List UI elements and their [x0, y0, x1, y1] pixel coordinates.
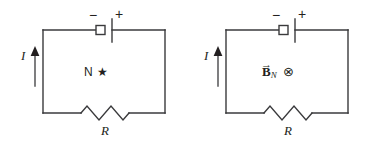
left-battery-short-plate [96, 26, 105, 35]
left-current-arrow-head [31, 46, 40, 56]
right-field-vector-label: →BN [262, 65, 277, 80]
circuit-drawing [0, 0, 367, 143]
filled-star-icon: ★ [97, 66, 108, 78]
right-current-label: I [204, 49, 208, 62]
circle-cross-into-page-icon: ⊗ [283, 65, 294, 78]
right-battery-short-plate [279, 26, 288, 35]
right-battery-positive-sign: + [298, 7, 306, 21]
vector-b-glyph: →B [262, 65, 271, 78]
field-subscript-n: N [271, 70, 277, 80]
left-resistor-label: R [101, 124, 109, 137]
left-battery-positive-sign: + [115, 7, 123, 21]
left-current-label: I [21, 49, 25, 62]
right-current-arrow-head [214, 46, 223, 56]
right-resistor-label: R [284, 124, 292, 137]
right-resistor-zigzag [264, 106, 312, 120]
circuit-figure: I − + N ★ R I − + →BN ⊗ R [0, 0, 367, 143]
left-field-source-label: N [84, 66, 93, 78]
left-battery-negative-sign: − [89, 8, 97, 22]
right-battery-negative-sign: − [272, 8, 280, 22]
left-resistor-zigzag [81, 106, 129, 120]
vector-arrow-icon: → [261, 59, 272, 70]
